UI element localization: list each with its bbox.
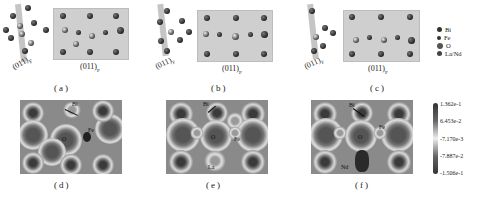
- label-fe: Fe: [379, 124, 385, 130]
- colorbar-tick-4: -7.887e-2: [440, 153, 463, 159]
- label-o: O: [211, 134, 215, 140]
- atom: [10, 13, 16, 19]
- side-plane-label: (011)F: [154, 54, 176, 72]
- colorbar-tick-3: -7.170e-3: [440, 136, 463, 142]
- panel-label-f: (f): [355, 180, 370, 190]
- panel-label-a: (a): [54, 83, 70, 93]
- charge-density-map-e: Bi O Fe La: [166, 100, 268, 174]
- plane-label: (011)P: [222, 64, 242, 75]
- legend-item-fe: Fe: [437, 34, 451, 41]
- plane-rectangle: [197, 10, 273, 62]
- atom: [43, 27, 49, 33]
- panel-label-c: (c): [370, 83, 386, 93]
- atom: [17, 23, 23, 29]
- label-o: O: [62, 136, 66, 142]
- panel-label-b: (b): [211, 83, 228, 93]
- plane-rectangle: [343, 10, 420, 62]
- colorbar-tick-5: -1.506e-1: [440, 170, 463, 176]
- side-plane-label: (011)F: [303, 54, 325, 72]
- charge-density-map-f: Bi Fe O Nd: [311, 100, 413, 174]
- legend-item-bi: Bi: [437, 26, 451, 33]
- fe-dot-icon: [437, 36, 441, 40]
- side-plane-label: (011)F: [11, 54, 33, 73]
- label-fe: Fe: [234, 136, 240, 142]
- plane-label: (011)P: [368, 64, 388, 75]
- o-dot-icon: [437, 43, 443, 49]
- atom: [28, 40, 34, 46]
- colorbar-tick-1: 1.362e-1: [440, 101, 461, 107]
- label-o: O: [358, 134, 362, 140]
- label-bi: Bi: [72, 101, 78, 107]
- label-la: La: [208, 164, 214, 170]
- label-bi: Bi: [349, 102, 355, 108]
- panel-label-e: (e): [206, 180, 222, 190]
- panel-label-d: (d): [54, 180, 71, 190]
- colorbar-tick-2: 6.453e-2: [440, 118, 461, 124]
- bi-dot-icon: [437, 27, 442, 32]
- atom: [19, 31, 25, 37]
- label-nd: Nd: [341, 164, 348, 170]
- legend-item-la-nd: La/Nd: [437, 50, 462, 57]
- atom: [31, 20, 37, 26]
- atom: [8, 35, 14, 41]
- plane-label: (011)P: [80, 62, 100, 73]
- plane-rectangle: [53, 8, 129, 60]
- charge-density-map-d: Bi Fe O: [20, 100, 122, 174]
- label-fe: Fe: [88, 127, 94, 133]
- atom: [3, 27, 9, 33]
- colorbar: [433, 103, 438, 174]
- la-nd-dot-icon: [437, 51, 442, 56]
- label-bi: Bi: [203, 101, 209, 107]
- legend-item-o: O: [437, 42, 451, 49]
- atom: [25, 5, 31, 11]
